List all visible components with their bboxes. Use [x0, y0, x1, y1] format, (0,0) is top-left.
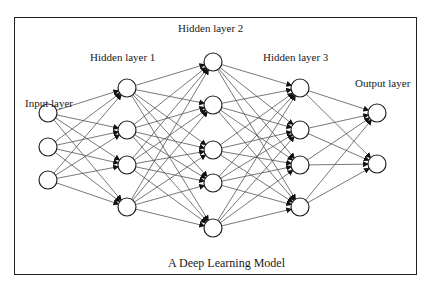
neuron-node	[39, 171, 57, 189]
layer-label: Hidden layer 1	[90, 51, 155, 63]
connection-edge	[307, 118, 369, 160]
connection-edge	[222, 209, 292, 226]
neuron-node	[118, 79, 136, 97]
connection-edge	[56, 118, 120, 160]
neuron-node	[39, 138, 57, 156]
neuron-node	[204, 96, 222, 114]
neuron-node	[204, 219, 222, 237]
neuron-node	[368, 155, 386, 173]
connection-edge	[57, 115, 118, 128]
connection-edge	[218, 96, 295, 221]
neuron-node	[291, 156, 309, 174]
neuron-node	[204, 141, 222, 159]
connection-edge	[219, 95, 294, 177]
connection-edge	[134, 93, 205, 144]
layer-label: Output layer	[355, 77, 410, 89]
connection-edge	[221, 135, 293, 179]
connection-edge	[56, 135, 120, 175]
connection-edge	[136, 185, 205, 204]
layer-label: Hidden layer 2	[178, 22, 243, 34]
connection-edge	[309, 164, 368, 165]
neuron-node	[291, 79, 309, 97]
connection-edge	[306, 94, 370, 157]
neuron-node	[118, 156, 136, 174]
neuron-node	[118, 198, 136, 216]
neuron-node	[291, 121, 309, 139]
connection-edge	[306, 120, 372, 200]
connection-edge	[222, 185, 292, 204]
connection-edge	[220, 68, 293, 125]
connection-edge	[219, 69, 294, 158]
connection-edge	[222, 107, 292, 127]
connection-edge	[309, 91, 369, 110]
neuron-node	[291, 198, 309, 216]
connection-edge	[133, 95, 207, 177]
connection-edge	[132, 96, 209, 221]
connection-edge	[220, 93, 292, 145]
neuron-node	[368, 104, 386, 122]
layer-label: Input layer	[25, 97, 73, 109]
neuron-node	[118, 121, 136, 139]
connection-edge	[133, 69, 207, 158]
connection-edge	[222, 65, 292, 86]
connection-edge	[136, 65, 205, 86]
neuron-node	[204, 53, 222, 71]
neural-network-graph	[0, 0, 433, 289]
layer-label: Hidden layer 3	[263, 51, 328, 63]
diagram-caption: A Deep Learning Model	[168, 256, 285, 271]
connection-edge	[134, 68, 206, 125]
neuron-node	[204, 174, 222, 192]
connection-edge	[136, 209, 205, 226]
connection-edge	[54, 120, 121, 200]
connection-edge	[308, 168, 369, 202]
connection-edge	[136, 108, 205, 128]
